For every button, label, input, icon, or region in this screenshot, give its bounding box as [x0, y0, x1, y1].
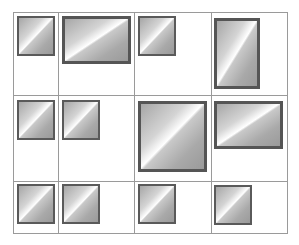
- layout-grid-diagram: [0, 0, 299, 245]
- image-placeholder-r2c2: [62, 100, 100, 140]
- grid-line-row-1: [13, 95, 288, 96]
- image-placeholder-r2c3-large: [138, 101, 207, 172]
- grid-line-col-2: [134, 12, 135, 234]
- image-placeholder-r2c1: [17, 100, 55, 140]
- grid-line-right: [287, 12, 288, 234]
- grid-line-left: [13, 12, 14, 234]
- image-placeholder-r1c2-wide: [62, 16, 131, 64]
- image-placeholder-r1c3: [138, 16, 176, 56]
- grid-line-col-3: [211, 12, 212, 234]
- image-placeholder-r3c2: [62, 184, 100, 224]
- image-placeholder-r3c3: [138, 184, 176, 224]
- grid-line-top: [13, 12, 288, 13]
- image-placeholder-r3c4: [214, 185, 252, 225]
- grid-line-bottom: [13, 233, 288, 234]
- image-placeholder-r1c1: [17, 16, 55, 56]
- image-placeholder-r2c4-wide: [214, 101, 283, 149]
- image-placeholder-r3c1: [17, 184, 55, 224]
- image-placeholder-r1c4-tall: [214, 18, 260, 89]
- grid-line-col-1: [58, 12, 59, 234]
- grid-line-row-2: [13, 181, 288, 182]
